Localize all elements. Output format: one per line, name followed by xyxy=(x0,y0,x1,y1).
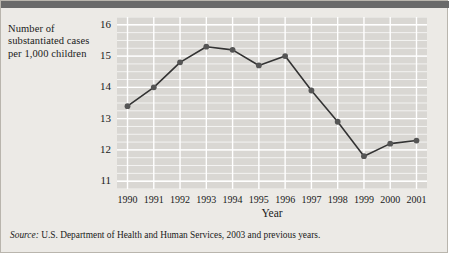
y-tick-label: 16 xyxy=(87,18,111,30)
data-point xyxy=(361,153,367,159)
y-tick-label: 14 xyxy=(87,80,111,92)
y-tick-label: 15 xyxy=(87,49,111,61)
x-axis-title: Year xyxy=(117,207,427,219)
data-point xyxy=(282,53,288,59)
data-point xyxy=(414,138,420,144)
y-tick-label: 13 xyxy=(87,112,111,124)
data-point xyxy=(230,47,236,53)
source-text: U.S. Department of Health and Human Serv… xyxy=(41,230,320,240)
data-point xyxy=(203,44,209,50)
y-tick-label: 12 xyxy=(87,143,111,155)
y-axis-caption: Number of substantiated cases per 1,000 … xyxy=(8,23,96,60)
data-point xyxy=(387,141,393,147)
data-point xyxy=(177,59,183,65)
data-line-series xyxy=(128,47,417,156)
source-label: Source: xyxy=(10,230,39,240)
grid-minor-lines xyxy=(117,17,427,189)
line-chart-svg xyxy=(117,17,427,189)
data-point xyxy=(151,84,157,90)
y-tick-label: 11 xyxy=(87,174,111,186)
source-note: Source: U.S. Department of Health and Hu… xyxy=(10,230,320,240)
top-rule-divider xyxy=(1,1,449,8)
data-point xyxy=(125,103,131,109)
data-point xyxy=(335,119,341,125)
x-tick-label: 2001 xyxy=(399,194,433,205)
data-point xyxy=(309,88,315,94)
data-point xyxy=(256,63,262,69)
plot-area xyxy=(117,17,427,189)
